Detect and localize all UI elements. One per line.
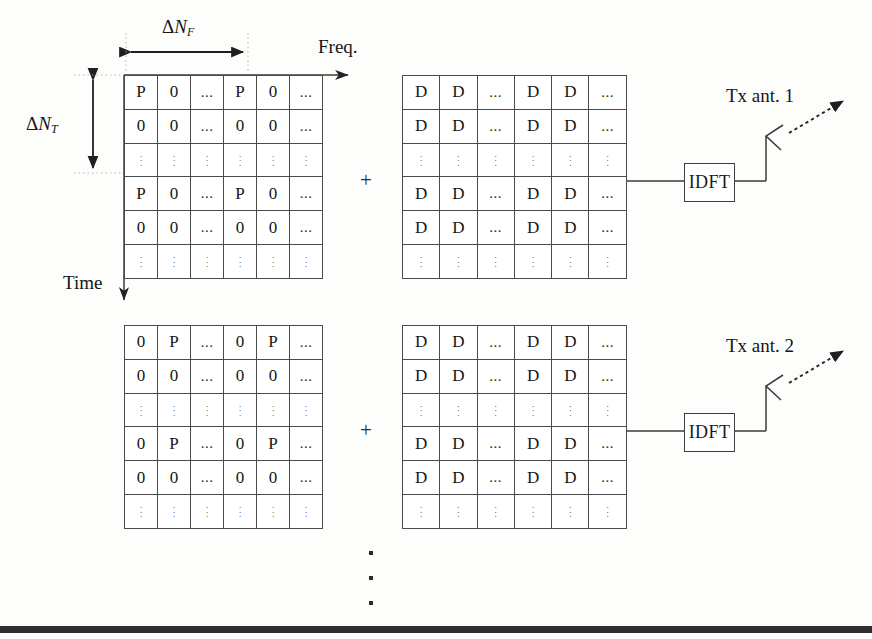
delta-nf-n-glyph: N [174, 16, 187, 37]
grid-row: 00...00... [125, 211, 323, 245]
grid-cell-vertical-ellipsis: ... [477, 393, 514, 427]
grid-cell-0: 0 [158, 109, 191, 143]
grid-cell-vertical-ellipsis: ... [125, 244, 158, 278]
grid-row: DD...DD... [403, 326, 627, 360]
grid-cell-vertical-ellipsis: ... [191, 244, 224, 278]
grid-cell-d: D [440, 326, 477, 360]
grid-cell-horizontal-ellipsis: ... [477, 177, 514, 211]
grid-cell-p: P [257, 326, 290, 360]
antenna-1-element [766, 125, 783, 150]
grid-cell-vertical-ellipsis: ... [125, 143, 158, 177]
delta-nt-subscript: T [51, 122, 58, 136]
grid-row: 00...00... [125, 461, 323, 495]
grid-cell-horizontal-ellipsis: ... [589, 326, 626, 360]
idft-block-antenna-1[interactable]: IDFT [684, 163, 735, 202]
grid-cell-vertical-ellipsis: ... [290, 494, 323, 528]
grid-row: DD...DD... [403, 359, 627, 393]
grid-cell-vertical-ellipsis: ... [403, 393, 440, 427]
grid-cell-0: 0 [224, 461, 257, 495]
grid-cell-vertical-ellipsis: ... [125, 393, 158, 427]
grid-cell-vertical-ellipsis: ... [158, 494, 191, 528]
grid-cell-p: P [224, 76, 257, 110]
grid-cell-d: D [440, 177, 477, 211]
grid-cell-horizontal-ellipsis: ... [290, 109, 323, 143]
grid-cell-d: D [514, 109, 551, 143]
frequency-axis-label: Freq. [318, 37, 358, 56]
grid-cell-horizontal-ellipsis: ... [477, 211, 514, 245]
continuation-dot [369, 551, 373, 555]
grid-row: .................. [125, 494, 323, 528]
grid-cell-vertical-ellipsis: ... [403, 143, 440, 177]
grid-cell-p: P [158, 427, 191, 461]
grid-cell-vertical-ellipsis: ... [440, 494, 477, 528]
grid-cell-horizontal-ellipsis: ... [191, 461, 224, 495]
grid-row: DD...DD... [403, 76, 627, 110]
grid-cell-horizontal-ellipsis: ... [589, 461, 626, 495]
grid-cell-horizontal-ellipsis: ... [290, 211, 323, 245]
grid-row: 0P...0P... [125, 427, 323, 461]
grid-row: .................. [403, 393, 627, 427]
grid-cell-d: D [514, 326, 551, 360]
grid-cell-vertical-ellipsis: ... [257, 393, 290, 427]
grid-cell-d: D [440, 109, 477, 143]
grid-cell-d: D [514, 177, 551, 211]
grid-cell-vertical-ellipsis: ... [224, 393, 257, 427]
grid-cell-0: 0 [125, 461, 158, 495]
grid-row: P0...P0... [125, 177, 323, 211]
grid-cell-vertical-ellipsis: ... [514, 494, 551, 528]
grid-row: 0P...0P... [125, 326, 323, 360]
grid-cell-d: D [552, 326, 589, 360]
grid-cell-0: 0 [125, 359, 158, 393]
grid-cell-d: D [552, 211, 589, 245]
grid-cell-vertical-ellipsis: ... [440, 393, 477, 427]
grid-row: DD...DD... [403, 177, 627, 211]
grid-cell-horizontal-ellipsis: ... [477, 326, 514, 360]
grid-cell-vertical-ellipsis: ... [514, 143, 551, 177]
grid-cell-horizontal-ellipsis: ... [191, 359, 224, 393]
radiation-arrow-1 [789, 101, 843, 133]
idft-block-2-label: IDFT [689, 422, 731, 443]
grid-cell-vertical-ellipsis: ... [552, 494, 589, 528]
grid-cell-vertical-ellipsis: ... [290, 244, 323, 278]
grid-cell-d: D [403, 461, 440, 495]
grid-row: P0...P0... [125, 76, 323, 110]
delta-nt-measure-arrow [74, 75, 128, 173]
delta-nt-label: ΔNT [26, 114, 58, 135]
grid-row: .................. [403, 244, 627, 278]
pilot-grid-antenna-2: 0P...0P...00...00.....................0P… [124, 325, 323, 529]
plus-operator-branch-1: + [360, 170, 372, 191]
pilot-grid-antenna-1: P0...P0...00...00.....................P0… [124, 75, 323, 279]
grid-cell-0: 0 [125, 326, 158, 360]
grid-cell-0: 0 [158, 177, 191, 211]
grid-cell-horizontal-ellipsis: ... [191, 109, 224, 143]
grid-cell-vertical-ellipsis: ... [514, 393, 551, 427]
data-grid-antenna-1: DD...DD...DD...DD.....................DD… [402, 75, 627, 279]
grid-cell-p: P [158, 326, 191, 360]
grid-cell-horizontal-ellipsis: ... [191, 211, 224, 245]
grid-row: .................. [403, 143, 627, 177]
grid-cell-d: D [403, 177, 440, 211]
grid-cell-horizontal-ellipsis: ... [477, 427, 514, 461]
grid-cell-vertical-ellipsis: ... [552, 244, 589, 278]
grid-cell-vertical-ellipsis: ... [477, 244, 514, 278]
grid-cell-d: D [514, 427, 551, 461]
grid-cell-vertical-ellipsis: ... [589, 143, 626, 177]
grid-cell-vertical-ellipsis: ... [158, 143, 191, 177]
idft-block-antenna-2[interactable]: IDFT [684, 413, 735, 452]
grid-cell-horizontal-ellipsis: ... [477, 359, 514, 393]
grid-cell-d: D [552, 76, 589, 110]
grid-row: 00...00... [125, 359, 323, 393]
grid-cell-d: D [440, 359, 477, 393]
grid-cell-vertical-ellipsis: ... [257, 244, 290, 278]
grid-cell-d: D [514, 461, 551, 495]
grid-cell-horizontal-ellipsis: ... [477, 109, 514, 143]
grid-cell-d: D [552, 461, 589, 495]
grid-row: DD...DD... [403, 211, 627, 245]
grid-cell-0: 0 [257, 76, 290, 110]
continuation-dot [369, 601, 373, 605]
grid-row: .................. [403, 494, 627, 528]
idft-block-1-label: IDFT [689, 172, 731, 193]
grid-cell-d: D [403, 76, 440, 110]
grid-cell-0: 0 [257, 461, 290, 495]
grid-cell-0: 0 [224, 211, 257, 245]
